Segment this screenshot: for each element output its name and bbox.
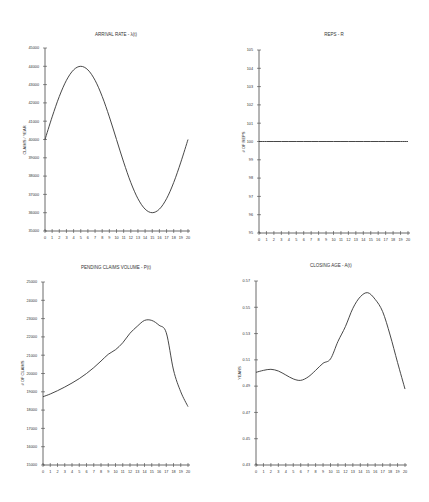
y-axis-label: YEARS xyxy=(237,366,242,380)
x-tick-label: 6 xyxy=(303,238,305,242)
x-tick-label: 19 xyxy=(398,238,402,242)
x-tick-label: 0 xyxy=(44,236,46,240)
y-tick-label: 23000 xyxy=(26,317,37,321)
x-tick-label: 3 xyxy=(277,470,279,474)
chart-pending-claims-volume: PENDING CLAIMS VOLUME - P(t) # OF CLAIMS… xyxy=(20,265,190,474)
x-tick-label: 3 xyxy=(280,238,282,242)
y-tick-label: 18000 xyxy=(26,408,37,412)
x-tick-label: 17 xyxy=(164,236,168,240)
x-tick-label: 17 xyxy=(381,470,385,474)
x-tick-label: 0 xyxy=(258,238,260,242)
x-tick-label: 13 xyxy=(135,470,139,474)
x-tick-label: 20 xyxy=(186,470,190,474)
x-tick-label: 10 xyxy=(328,470,332,474)
x-tick-label: 8 xyxy=(101,236,103,240)
y-tick-label: 41000 xyxy=(28,120,39,124)
x-tick-label: 9 xyxy=(107,470,109,474)
x-tick-label: 5 xyxy=(292,470,294,474)
x-tick-label: 12 xyxy=(129,236,133,240)
y-tick-label: 22000 xyxy=(26,335,37,339)
x-tick-label: 3 xyxy=(65,236,67,240)
y-tick-label: 0.43 xyxy=(243,463,250,467)
x-tick-label: 15 xyxy=(369,238,373,242)
x-tick-label: 3 xyxy=(64,470,66,474)
y-tick-label: 19000 xyxy=(26,390,37,394)
x-tick-label: 11 xyxy=(339,238,343,242)
y-tick-label: 43000 xyxy=(28,83,39,87)
x-tick-label: 16 xyxy=(157,236,161,240)
chart-title: CLOSING AGE - A(t) xyxy=(310,263,352,268)
x-tick-label: 14 xyxy=(142,470,146,474)
y-tick-label: 104 xyxy=(247,67,253,71)
x-tick-label: 2 xyxy=(273,238,275,242)
x-tick-label: 11 xyxy=(122,236,126,240)
data-line xyxy=(45,66,188,212)
chart-title: REPS - R xyxy=(324,32,344,37)
y-tick-label: 96 xyxy=(249,213,253,217)
x-tick-label: 20 xyxy=(406,238,410,242)
y-tick-label: 36000 xyxy=(28,211,39,215)
y-axis-label: CLAIMS / YEAR xyxy=(22,125,27,154)
x-tick-label: 4 xyxy=(288,238,290,242)
x-tick-label: 12 xyxy=(343,470,347,474)
x-tick-label: 6 xyxy=(300,470,302,474)
x-tick-label: 16 xyxy=(376,238,380,242)
x-tick-label: 5 xyxy=(78,470,80,474)
x-tick-label: 17 xyxy=(164,470,168,474)
x-tick-label: 9 xyxy=(108,236,110,240)
y-tick-label: 102 xyxy=(247,103,253,107)
x-tick-label: 8 xyxy=(315,470,317,474)
x-tick-label: 7 xyxy=(94,236,96,240)
y-tick-label: 0.57 xyxy=(243,279,250,283)
x-tick-label: 18 xyxy=(171,470,175,474)
x-tick-label: 4 xyxy=(71,470,73,474)
x-tick-label: 1 xyxy=(265,238,267,242)
x-tick-label: 8 xyxy=(318,238,320,242)
x-tick-label: 9 xyxy=(325,238,327,242)
y-tick-label: 98 xyxy=(249,176,253,180)
x-tick-label: 1 xyxy=(51,236,53,240)
x-tick-label: 16 xyxy=(157,470,161,474)
y-tick-label: 17000 xyxy=(26,427,37,431)
x-tick-label: 8 xyxy=(100,470,102,474)
x-tick-label: 12 xyxy=(128,470,132,474)
y-tick-label: 103 xyxy=(247,85,253,89)
y-tick-label: 0.45 xyxy=(243,437,250,441)
y-tick-label: 101 xyxy=(247,122,253,126)
x-tick-label: 13 xyxy=(354,238,358,242)
x-tick-label: 1 xyxy=(49,470,51,474)
chart-closing-age: CLOSING AGE - A(t) YEARS 0.430.450.470.4… xyxy=(237,263,407,474)
x-tick-label: 6 xyxy=(85,470,87,474)
x-tick-label: 7 xyxy=(307,470,309,474)
y-tick-label: 0.47 xyxy=(243,411,250,415)
y-tick-label: 45000 xyxy=(28,46,39,50)
y-tick-label: 100 xyxy=(247,140,253,144)
x-tick-label: 11 xyxy=(336,470,340,474)
y-axis-label: # OF CLAIMS xyxy=(20,360,25,385)
y-tick-label: 21000 xyxy=(26,354,37,358)
figure: ARRIVAL RATE - λ(t) CLAIMS / YEAR 350003… xyxy=(0,0,429,502)
x-tick-label: 2 xyxy=(270,470,272,474)
x-tick-label: 2 xyxy=(56,470,58,474)
x-tick-label: 18 xyxy=(391,238,395,242)
x-tick-label: 16 xyxy=(373,470,377,474)
x-tick-label: 17 xyxy=(384,238,388,242)
x-tick-label: 10 xyxy=(331,238,335,242)
y-tick-label: 44000 xyxy=(28,65,39,69)
x-tick-label: 7 xyxy=(93,470,95,474)
y-tick-label: 95 xyxy=(249,231,253,235)
x-tick-label: 20 xyxy=(403,470,407,474)
y-tick-label: 0.53 xyxy=(243,332,250,336)
x-tick-label: 2 xyxy=(58,236,60,240)
x-tick-label: 19 xyxy=(179,236,183,240)
x-tick-label: 14 xyxy=(358,470,362,474)
y-tick-label: 0.55 xyxy=(243,306,250,310)
x-tick-label: 18 xyxy=(172,236,176,240)
x-tick-label: 11 xyxy=(121,470,125,474)
chart-title: ARRIVAL RATE - λ(t) xyxy=(95,32,138,37)
y-tick-label: 38000 xyxy=(28,174,39,178)
x-tick-label: 13 xyxy=(351,470,355,474)
x-tick-label: 9 xyxy=(322,470,324,474)
x-tick-label: 0 xyxy=(255,470,257,474)
x-tick-label: 7 xyxy=(310,238,312,242)
